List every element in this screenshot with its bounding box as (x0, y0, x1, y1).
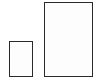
large-page-icon (44, 2, 93, 77)
small-page-icon (9, 41, 33, 77)
